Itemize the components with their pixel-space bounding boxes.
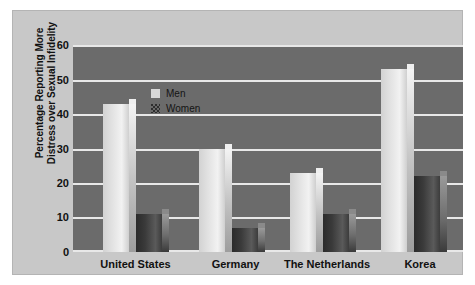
y-tick-label: 10 xyxy=(47,212,69,223)
bar-front-face xyxy=(136,214,162,252)
bar-side-face xyxy=(162,214,169,252)
plot-area: Men Women xyxy=(73,45,463,252)
x-axis-category-labels: United States Germany The Netherlands Ko… xyxy=(73,257,463,277)
bar-side-face xyxy=(316,173,323,252)
x-label-korea: Korea xyxy=(365,257,475,271)
figure-panel: Percentage Reporting More Distress over … xyxy=(12,10,463,275)
legend-item-women: Women xyxy=(151,102,231,115)
bar-front-face xyxy=(103,104,129,252)
legend: Men Women xyxy=(151,87,231,117)
bar-men-the-netherlands xyxy=(290,173,316,252)
y-tick-label: 0 xyxy=(47,247,69,258)
y-tick-label: 40 xyxy=(47,108,69,119)
bar-men-korea xyxy=(381,69,407,252)
bar-front-face xyxy=(290,173,316,252)
y-tick-label: 30 xyxy=(47,143,69,154)
bar-front-face xyxy=(414,176,440,252)
bar-side-face xyxy=(129,104,136,252)
bar-women-the-netherlands xyxy=(323,214,349,252)
chart-screenshot: Percentage Reporting More Distress over … xyxy=(0,0,475,285)
y-tick-label: 20 xyxy=(47,178,69,189)
bar-front-face xyxy=(381,69,407,252)
bar-women-germany xyxy=(232,228,258,252)
bar-side-face xyxy=(225,149,232,253)
bar-men-germany xyxy=(199,149,225,253)
bar-front-face xyxy=(232,228,258,252)
bar-men-united-states xyxy=(103,104,129,252)
bar-side-face xyxy=(258,228,265,252)
legend-swatch-women-icon xyxy=(151,104,160,113)
bar-side-face xyxy=(349,214,356,252)
bar-side-face xyxy=(407,69,414,252)
bar-front-face xyxy=(199,149,225,253)
legend-label-women: Women xyxy=(166,103,200,114)
y-axis-tick-labels: 0 10 20 30 40 50 60 xyxy=(43,45,69,252)
bar-front-face xyxy=(323,214,349,252)
y-tick-label: 50 xyxy=(47,74,69,85)
legend-label-men: Men xyxy=(166,88,185,99)
gridline-60 xyxy=(73,45,463,47)
legend-item-men: Men xyxy=(151,87,231,100)
bar-women-korea xyxy=(414,176,440,252)
bar-women-united-states xyxy=(136,214,162,252)
legend-swatch-men-icon xyxy=(151,89,160,98)
y-tick-label: 60 xyxy=(47,40,69,51)
bar-side-face xyxy=(440,176,447,252)
